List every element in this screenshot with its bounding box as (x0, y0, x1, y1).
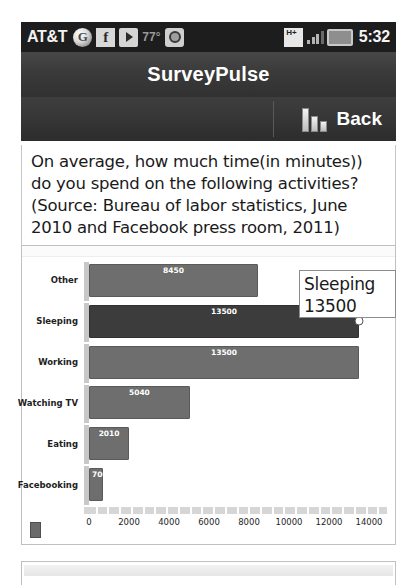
y-axis-labels: OtherSleepingWorkingWatching TVEatingFac… (22, 260, 84, 505)
x-axis-segment (260, 507, 262, 514)
x-axis-segment (319, 507, 321, 514)
bar-value-label: 13500 (90, 348, 358, 357)
phone-screen: AT&T G f 77° H+ 5:32 SurveyPulse Back On… (0, 0, 417, 585)
x-axis-segment (225, 507, 227, 514)
x-axis-tick-label: 10000 (275, 517, 302, 527)
clock-label: 5:32 (359, 28, 390, 46)
x-axis-tick-label: 14000 (355, 517, 382, 527)
carrier-label: AT&T (27, 28, 67, 46)
x-axis-tick-label: 2000 (118, 517, 140, 527)
question-text: On average, how much time(in minutes)) d… (31, 151, 386, 239)
x-axis-line (84, 507, 387, 514)
x-axis-segment (131, 507, 133, 514)
page-title: SurveyPulse (147, 63, 269, 86)
bottom-strip (24, 565, 393, 576)
hplus-network-icon: H+ (284, 28, 303, 47)
y-axis-label: Sleeping (36, 316, 78, 326)
x-axis-segment (96, 507, 98, 514)
x-axis-segment (354, 507, 356, 514)
tooltip-category: Sleeping (304, 273, 391, 295)
x-axis-segment (295, 507, 297, 514)
bar[interactable]: 8450 (89, 264, 258, 297)
y-axis-label: Working (38, 357, 78, 367)
x-axis-segment (154, 507, 156, 514)
x-axis-tick-label: 0 (86, 517, 91, 527)
y-axis-label: Watching TV (18, 398, 78, 408)
bar[interactable]: 700 (89, 468, 103, 501)
x-axis-tick-labels: 02000400060008000100001200014000 (89, 517, 387, 531)
question-panel: On average, how much time(in minutes)) d… (21, 145, 396, 245)
bar[interactable]: 13500 (89, 346, 359, 379)
battery-icon (327, 29, 353, 46)
legend-swatch (30, 522, 41, 538)
y-axis-label: Other (51, 275, 78, 285)
y-axis-label: Eating (47, 439, 78, 449)
status-bar: AT&T G f 77° H+ 5:32 (21, 22, 396, 52)
x-axis-tick-label: 12000 (315, 517, 342, 527)
bar-value-label: 8450 (90, 266, 257, 275)
bar-row[interactable]: 5040 (89, 386, 387, 419)
bar[interactable]: 5040 (89, 386, 190, 419)
selected-point-marker (355, 317, 364, 326)
x-axis-segment (272, 507, 274, 514)
x-axis-segment (283, 507, 285, 514)
x-axis-segment (330, 507, 332, 514)
x-axis-segment (178, 507, 180, 514)
bar-row[interactable]: 700 (89, 468, 387, 501)
bottom-panel (21, 561, 396, 585)
back-button[interactable]: Back (337, 108, 382, 130)
back-divider (273, 101, 274, 137)
bar-row[interactable]: 13500 (89, 346, 387, 379)
x-axis-segment (307, 507, 309, 514)
bar-row[interactable]: 2010 (89, 427, 387, 460)
camera-icon (165, 28, 184, 47)
play-store-icon (119, 28, 138, 47)
x-axis-tick-label: 6000 (198, 517, 220, 527)
x-axis-segment (237, 507, 239, 514)
temperature-label: 77° (142, 30, 160, 44)
x-axis-tick-label: 8000 (238, 517, 260, 527)
x-axis-segment (143, 507, 145, 514)
back-bar: Back (21, 97, 396, 141)
signal-icon (307, 30, 324, 44)
chrome-icon: G (73, 28, 92, 47)
x-axis-segment (119, 507, 121, 514)
tooltip-value: 13500 (304, 295, 391, 317)
bar-value-label: 5040 (90, 388, 189, 397)
app-titlebar: SurveyPulse (21, 52, 396, 97)
x-axis-segment (213, 507, 215, 514)
x-axis-segment (201, 507, 203, 514)
tooltip: Sleeping 13500 (299, 270, 396, 318)
x-axis-segment (166, 507, 168, 514)
x-axis-segment (342, 507, 344, 514)
x-axis-segment (377, 507, 379, 514)
x-axis-segment (190, 507, 192, 514)
bar-value-label: 2010 (90, 429, 128, 438)
facebook-icon: f (96, 28, 115, 47)
x-axis-segment (366, 507, 368, 514)
bar[interactable]: 2010 (89, 427, 129, 460)
bar-value-label: 700 (92, 470, 106, 479)
y-axis-label: Facebooking (18, 480, 78, 490)
x-axis-segment (107, 507, 109, 514)
x-axis-segment (248, 507, 250, 514)
bar-chart-icon (302, 106, 327, 132)
x-axis-tick-label: 4000 (158, 517, 180, 527)
